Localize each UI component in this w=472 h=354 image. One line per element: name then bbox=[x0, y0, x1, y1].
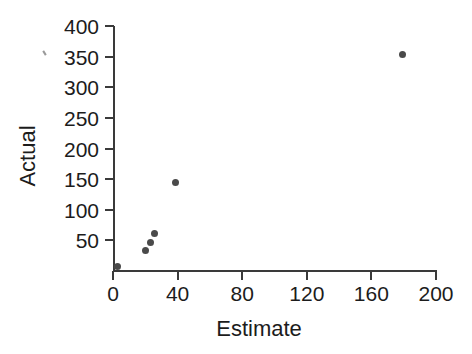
y-tick-label-200: 200 bbox=[64, 138, 99, 159]
y-tick-label-300: 300 bbox=[64, 77, 99, 98]
y-tick-label-150: 150 bbox=[64, 169, 99, 190]
y-tick-300: 300 bbox=[105, 86, 114, 88]
y-tick-200: 200 bbox=[105, 148, 114, 150]
x-tick-label-120: 120 bbox=[289, 283, 324, 304]
scatter-plot-figure: 50100150200250300350400 04080120160200 E… bbox=[0, 0, 472, 354]
x-axis-line bbox=[113, 270, 437, 272]
x-tick-label-200: 200 bbox=[418, 283, 453, 304]
scan-artifact-speck bbox=[42, 50, 46, 55]
y-tick-label-250: 250 bbox=[64, 108, 99, 129]
data-point bbox=[114, 263, 121, 270]
y-tick-100: 100 bbox=[105, 209, 114, 211]
x-tick-40: 40 bbox=[177, 271, 179, 280]
y-tick-label-50: 50 bbox=[76, 230, 99, 251]
y-tick-label-400: 400 bbox=[64, 16, 99, 37]
y-tick-350: 350 bbox=[105, 56, 114, 58]
x-tick-80: 80 bbox=[241, 271, 243, 280]
y-tick-50: 50 bbox=[105, 239, 114, 241]
y-tick-label-350: 350 bbox=[64, 46, 99, 67]
x-axis-title-text: Estimate bbox=[170, 318, 302, 340]
data-point bbox=[399, 51, 406, 58]
data-point bbox=[147, 239, 154, 246]
y-axis-title: Actual bbox=[14, 104, 42, 208]
data-point bbox=[142, 247, 149, 254]
x-tick-label-160: 160 bbox=[354, 283, 389, 304]
x-tick-120: 120 bbox=[306, 271, 308, 280]
y-tick-250: 250 bbox=[105, 117, 114, 119]
x-tick-label-80: 80 bbox=[231, 283, 254, 304]
y-tick-400: 400 bbox=[105, 25, 114, 27]
data-point bbox=[172, 179, 179, 186]
y-tick-150: 150 bbox=[105, 178, 114, 180]
x-tick-200: 200 bbox=[435, 271, 437, 280]
data-point bbox=[151, 230, 158, 237]
x-tick-label-40: 40 bbox=[166, 283, 189, 304]
y-tick-label-100: 100 bbox=[64, 199, 99, 220]
y-axis-title-text: Actual bbox=[17, 125, 39, 186]
x-tick-160: 160 bbox=[370, 271, 372, 280]
x-axis-title: Estimate bbox=[0, 318, 472, 340]
x-tick-label-0: 0 bbox=[107, 283, 119, 304]
x-tick-0: 0 bbox=[112, 271, 114, 280]
